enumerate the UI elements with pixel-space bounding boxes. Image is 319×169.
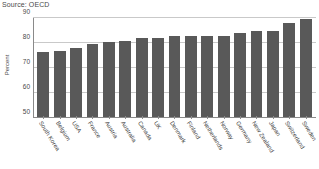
x-axis-tick [273,116,274,119]
bar-series [33,18,316,118]
x-axis-tick [306,116,307,119]
y-axis-tick-label: 50 [23,108,30,115]
bar-slot [248,18,264,118]
y-axis-line [33,18,34,118]
x-axis-label-slot: Netherlands [199,119,215,169]
bar [169,36,181,119]
bar [283,23,295,118]
bar [152,38,164,118]
bar-slot [150,18,166,118]
bar-slot [117,18,133,118]
bar-slot [232,18,248,118]
x-axis-tick-label: USA [71,120,83,134]
bar-slot [101,18,117,118]
x-axis-label-slot: Norway [215,119,231,169]
plot-area: 5060708090 [33,18,316,118]
bar [300,19,312,118]
x-axis-label-slot: Germany [232,119,248,169]
bar-slot [215,18,231,118]
x-axis-label-slot: New Zealand [248,119,264,169]
bar [37,52,49,118]
x-axis-label-slot: Finland [183,119,199,169]
bar-slot [183,18,199,118]
bar-slot [166,18,182,118]
x-axis-tick [92,116,93,119]
bar [267,31,279,119]
bar-slot [265,18,281,118]
x-axis-label-slot: Denmark [166,119,182,169]
bar-slot [35,18,51,118]
x-axis-tick [76,116,77,119]
x-axis-tick [125,116,126,119]
y-axis-label: Percent [4,45,10,85]
bar [103,42,115,118]
x-axis-label-slot: UK [150,119,166,169]
bar [70,48,82,118]
x-axis-label-slot: South Korea [35,119,51,169]
bar [218,36,230,119]
bar-slot [133,18,149,118]
x-axis-tick [142,116,143,119]
x-axis-tick [289,116,290,119]
x-axis-label-slot: Sweden [298,119,314,169]
x-axis-tick [224,116,225,119]
y-axis-tick-label: 90 [23,8,30,15]
bar-chart: Source: OECD Percent 5060708090 South Ko… [0,0,319,169]
x-axis-label-slot: France [84,119,100,169]
x-axis-tick [43,116,44,119]
x-axis-tick [256,116,257,119]
bar-slot [281,18,297,118]
y-axis-tick-label: 70 [23,58,30,65]
bar-slot [298,18,314,118]
x-axis-tick [207,116,208,119]
x-axis-tick [240,116,241,119]
y-axis-tick-label: 80 [23,33,30,40]
x-axis-tick [60,116,61,119]
bar [185,36,197,119]
bar [234,33,246,118]
x-axis-tick [191,116,192,119]
bar-slot [199,18,215,118]
x-axis-label-slot: Japan [265,119,281,169]
bar [251,31,263,119]
x-axis-tick-label: Japan [268,120,282,137]
bar [136,38,148,118]
bar [119,41,131,119]
x-axis-tick [158,116,159,119]
bar-slot [84,18,100,118]
x-axis-tick [174,116,175,119]
x-axis-label-slot: Belgium [51,119,67,169]
x-axis-label-slot: Canada [133,119,149,169]
bar [201,36,213,119]
y-axis-tick-label: 60 [23,83,30,90]
x-axis-tick [109,116,110,119]
x-axis-label-slot: Austria [101,119,117,169]
bar [87,44,99,118]
x-axis-tick-label: Sweden [301,120,318,142]
bar-slot [68,18,84,118]
x-axis-labels: South KoreaBelgiumUSAFranceAustriaAustra… [33,119,316,169]
x-axis-label-slot: USA [68,119,84,169]
x-axis-label-slot: Australia [117,119,133,169]
bar-slot [51,18,67,118]
x-axis-label-slot: Switzerland [281,119,297,169]
bar [54,51,66,119]
x-axis-tick-label: UK [153,120,163,130]
